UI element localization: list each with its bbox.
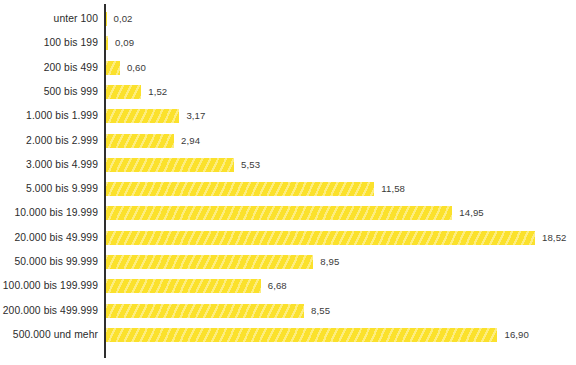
bar-row: 1.000 bis 1.9993,17 [0, 104, 576, 128]
category-label: unter 100 [0, 7, 98, 31]
bar[interactable] [106, 158, 234, 172]
bar[interactable] [106, 206, 452, 220]
bar[interactable] [106, 61, 120, 75]
bar-row: 500 bis 9991,52 [0, 80, 576, 104]
bar-value-label: 8,55 [311, 299, 330, 323]
bar-value-label: 18,52 [542, 226, 567, 250]
bar-track [106, 109, 179, 123]
bar[interactable] [106, 231, 535, 245]
bar-value-label: 0,60 [127, 56, 146, 80]
bar-track [106, 304, 304, 318]
bar-rows-container: unter 1000,02100 bis 1990,09200 bis 4990… [0, 0, 576, 365]
category-label: 3.000 bis 4.999 [0, 153, 98, 177]
category-label: 200.000 bis 499.999 [0, 299, 98, 323]
category-label: 100.000 bis 199.999 [0, 274, 98, 298]
bar-track [106, 231, 535, 245]
bar-value-label: 6,68 [268, 274, 287, 298]
bar[interactable] [106, 85, 141, 99]
bar[interactable] [106, 109, 179, 123]
bar-row: unter 1000,02 [0, 7, 576, 31]
bar-row: 5.000 bis 9.99911,58 [0, 177, 576, 201]
category-label: 10.000 bis 19.999 [0, 201, 98, 225]
category-label: 2.000 bis 2.999 [0, 129, 98, 153]
bar-value-label: 1,52 [148, 80, 167, 104]
bar-track [106, 182, 374, 196]
bar[interactable] [106, 328, 497, 342]
bar-row: 100.000 bis 199.9996,68 [0, 274, 576, 298]
bar[interactable] [106, 36, 108, 50]
bar[interactable] [106, 255, 313, 269]
bar-value-label: 0,09 [115, 31, 134, 55]
bar-value-label: 5,53 [241, 153, 260, 177]
bar[interactable] [106, 182, 374, 196]
bar-row: 50.000 bis 99.9998,95 [0, 250, 576, 274]
bar-track [106, 206, 452, 220]
bar-track [106, 134, 174, 148]
bar-row: 10.000 bis 19.99914,95 [0, 201, 576, 225]
category-label: 100 bis 199 [0, 31, 98, 55]
bar-row: 2.000 bis 2.9992,94 [0, 129, 576, 153]
bar-value-label: 3,17 [186, 104, 205, 128]
bar-track [106, 279, 261, 293]
bar-track [106, 61, 120, 75]
bar[interactable] [106, 304, 304, 318]
bar-value-label: 2,94 [181, 129, 200, 153]
bar-row: 500.000 und mehr16,90 [0, 323, 576, 347]
bar-track [106, 328, 497, 342]
bar[interactable] [106, 134, 174, 148]
bar-row: 200 bis 4990,60 [0, 56, 576, 80]
bar-value-label: 14,95 [459, 201, 484, 225]
bar-row: 200.000 bis 499.9998,55 [0, 299, 576, 323]
bar-track [106, 36, 108, 50]
category-label: 500.000 und mehr [0, 323, 98, 347]
bar-value-label: 8,95 [320, 250, 339, 274]
category-label: 50.000 bis 99.999 [0, 250, 98, 274]
bar[interactable] [106, 279, 261, 293]
category-label: 1.000 bis 1.999 [0, 104, 98, 128]
bar-value-label: 11,58 [381, 177, 405, 201]
category-label: 5.000 bis 9.999 [0, 177, 98, 201]
horizontal-bar-chart: unter 1000,02100 bis 1990,09200 bis 4990… [0, 0, 576, 365]
bar-track [106, 158, 234, 172]
bar-track [106, 255, 313, 269]
bar-row: 20.000 bis 49.99918,52 [0, 226, 576, 250]
category-label: 500 bis 999 [0, 80, 98, 104]
bar-row: 3.000 bis 4.9995,53 [0, 153, 576, 177]
category-label: 20.000 bis 49.999 [0, 226, 98, 250]
category-label: 200 bis 499 [0, 56, 98, 80]
bar-track [106, 85, 141, 99]
bar-value-label: 16,90 [504, 323, 529, 347]
bar-value-label: 0,02 [113, 7, 132, 31]
bar-row: 100 bis 1990,09 [0, 31, 576, 55]
